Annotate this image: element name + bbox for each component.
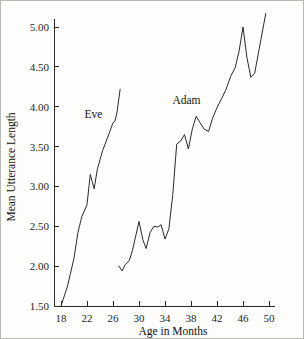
series-annotations: EveAdam bbox=[85, 94, 201, 120]
y-tick-label: 3.00 bbox=[30, 180, 50, 192]
x-tick-label: 38 bbox=[186, 312, 198, 324]
y-axis-ticks: 1.502.002.503.003.504.004.505.00 bbox=[30, 21, 59, 312]
series-line-eve bbox=[61, 89, 120, 306]
x-axis-title: Age in Months bbox=[139, 325, 209, 338]
series-label-adam: Adam bbox=[172, 94, 200, 106]
x-tick-label: 18 bbox=[56, 312, 68, 324]
y-tick-label: 5.00 bbox=[30, 21, 50, 33]
y-tick-label: 2.50 bbox=[30, 220, 50, 232]
x-tick-label: 34 bbox=[160, 312, 172, 324]
y-tick-label: 3.50 bbox=[30, 141, 50, 153]
series-line-adam bbox=[119, 13, 266, 270]
x-tick-label: 42 bbox=[212, 312, 223, 324]
x-tick-label: 30 bbox=[134, 312, 146, 324]
x-tick-label: 22 bbox=[82, 312, 93, 324]
data-series-group bbox=[61, 13, 266, 306]
y-axis-title: Mean Utterance Length bbox=[5, 112, 18, 221]
y-tick-label: 4.00 bbox=[30, 101, 50, 113]
series-label-eve: Eve bbox=[85, 108, 103, 120]
y-tick-label: 1.50 bbox=[30, 300, 50, 312]
x-tick-label: 26 bbox=[108, 312, 120, 324]
chart-figure: 1.502.002.503.003.504.004.505.00 1822263… bbox=[0, 0, 304, 339]
x-axis-ticks: 182226303438424650 bbox=[56, 301, 276, 324]
line-chart: 1.502.002.503.003.504.004.505.00 1822263… bbox=[1, 1, 304, 339]
y-tick-label: 4.50 bbox=[30, 61, 50, 73]
x-tick-label: 46 bbox=[238, 312, 250, 324]
x-tick-label: 50 bbox=[264, 312, 276, 324]
y-tick-label: 2.00 bbox=[30, 260, 50, 272]
